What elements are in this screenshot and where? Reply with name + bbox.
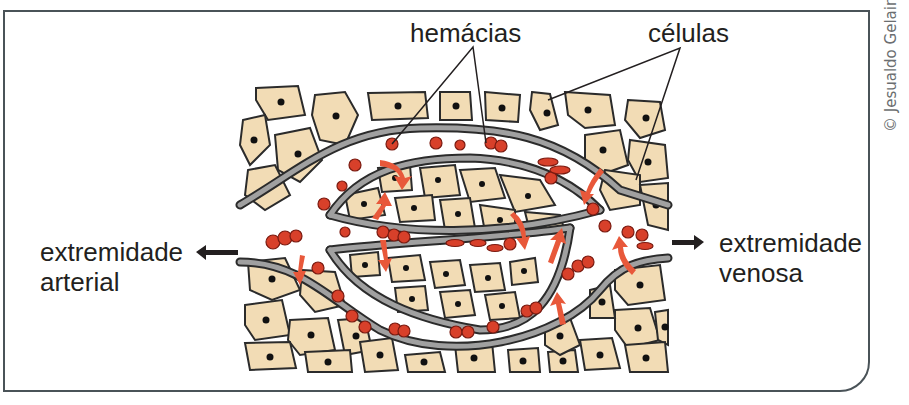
arrow-right-icon	[672, 235, 704, 250]
label-extremidade-venosa-2: venosa	[719, 258, 803, 288]
label-extremidade-venosa-1: extremidade	[719, 228, 862, 258]
label-celulas: células	[648, 18, 729, 48]
capillary-illustration	[0, 0, 909, 405]
label-hemacias: hemácias	[410, 18, 521, 48]
label-extremidade-arterial-1: extremidade	[40, 237, 183, 267]
credit-text: © Jesualdo Gelain	[882, 0, 900, 132]
arrow-left-icon	[196, 245, 238, 260]
label-extremidade-arterial-2: arterial	[40, 267, 119, 297]
